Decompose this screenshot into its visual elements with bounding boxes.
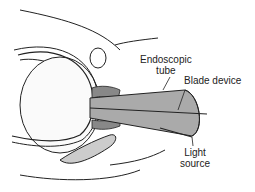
label-line: source xyxy=(180,158,210,169)
label-light-source: Light source xyxy=(180,147,210,169)
label-blade-device: Blade device xyxy=(184,75,241,86)
uterus-shape xyxy=(20,57,100,153)
label-endoscopic-tube: Endoscopic tube xyxy=(140,54,192,76)
endoscopy-illustration xyxy=(0,0,255,192)
body-outline xyxy=(20,10,120,50)
label-line: Light xyxy=(180,147,210,158)
label-line: Endoscopic xyxy=(140,54,192,65)
